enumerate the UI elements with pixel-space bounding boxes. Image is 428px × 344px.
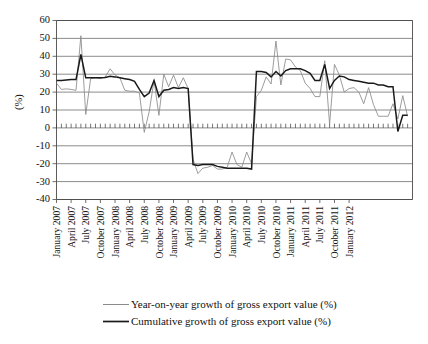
- x-tick-label: July 2008: [139, 206, 150, 244]
- x-tick-label: January 2012: [344, 206, 355, 258]
- legend-label-year-on-year: Year-on-year growth of gross export valu…: [131, 298, 337, 311]
- y-axis-title: (%): [13, 94, 25, 110]
- x-tick-label: October 2007: [95, 206, 106, 259]
- y-tick-label: 0: [45, 122, 50, 133]
- y-tick-label: -30: [36, 176, 50, 187]
- y-tick-label: -10: [36, 140, 50, 151]
- legend-label-cumulative: Cumulative growth of gross export value …: [131, 315, 331, 328]
- x-tick-label: October 2009: [212, 206, 223, 259]
- x-tick-label: January 2011: [285, 206, 296, 257]
- y-tick-label: 20: [40, 86, 51, 97]
- line-chart: -40-30-20-100102030405060January 2007Apr…: [0, 0, 428, 344]
- x-tick-label: April 2011: [300, 206, 311, 248]
- x-tick-label: October 2011: [329, 206, 340, 258]
- x-tick-label: July 2009: [197, 206, 208, 244]
- x-tick-label: January 2008: [110, 206, 121, 258]
- y-tick-label: 40: [40, 50, 51, 61]
- x-tick-label: July 2010: [256, 206, 267, 244]
- x-axis-monthly-ticks: [57, 124, 408, 128]
- x-tick-label: October 2008: [154, 206, 165, 259]
- y-tick-label: 50: [40, 32, 51, 43]
- x-tick-label: April 2009: [183, 206, 194, 248]
- x-tick-label: January 2007: [51, 206, 62, 258]
- x-tick-label: April 2008: [124, 206, 135, 248]
- gridlines-group: [57, 21, 413, 200]
- x-tick-label: April 2010: [241, 206, 252, 248]
- y-tick-label: 30: [40, 68, 51, 79]
- x-tick-label: January 2010: [227, 206, 238, 258]
- chart-legend: Year-on-year growth of gross export valu…: [103, 298, 337, 328]
- y-axis-ticks: -40-30-20-100102030405060: [36, 14, 57, 204]
- chart-figure: -40-30-20-100102030405060January 2007Apr…: [0, 0, 428, 344]
- y-tick-label: 10: [40, 104, 51, 115]
- y-tick-label: -20: [36, 158, 50, 169]
- x-tick-label: January 2009: [168, 206, 179, 258]
- x-tick-label: April 2007: [66, 206, 77, 248]
- x-tick-label: July 2011: [314, 206, 325, 243]
- y-tick-label: 60: [40, 14, 51, 25]
- x-tick-label: July 2007: [80, 206, 91, 244]
- x-tick-label: October 2010: [271, 206, 282, 259]
- x-axis-ticks: January 2007April 2007July 2007October 2…: [51, 200, 355, 259]
- y-tick-label: -40: [36, 193, 50, 204]
